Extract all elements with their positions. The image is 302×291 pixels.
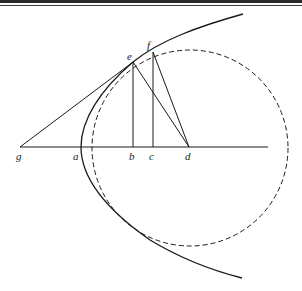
- segment-fd: [153, 52, 189, 147]
- segment-ed: [133, 62, 189, 147]
- label-g: g: [16, 150, 22, 162]
- tangent-line-ge: [20, 62, 133, 147]
- dashed-circle: [92, 50, 288, 246]
- label-e: e: [127, 50, 132, 62]
- label-c: c: [149, 150, 154, 162]
- geometry-diagram: g a b c d e f: [0, 0, 302, 291]
- label-a: a: [73, 150, 79, 162]
- label-b: b: [129, 150, 135, 162]
- label-d: d: [185, 150, 191, 162]
